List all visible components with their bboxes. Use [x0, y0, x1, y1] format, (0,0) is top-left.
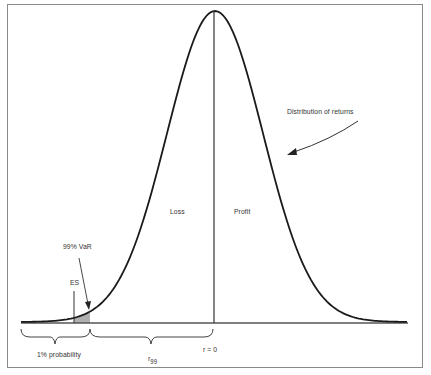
distribution-diagram — [0, 0, 431, 375]
distribution-arrowhead-icon — [287, 148, 297, 155]
brace-r99 — [90, 329, 213, 344]
brace-one-pct — [21, 329, 90, 344]
var-label: 99% VaR — [63, 242, 92, 251]
r-zero-label: r = 0 — [203, 345, 217, 354]
one-pct-probability-label: 1% probability — [37, 350, 81, 359]
distribution-label: Distribution of returns — [287, 107, 354, 116]
es-label: ES — [70, 278, 79, 287]
distribution-arrow — [294, 121, 358, 152]
r99-label: r99 — [148, 354, 157, 365]
loss-label: Loss — [170, 207, 185, 216]
r99-subscript: 99 — [150, 358, 157, 365]
var-arrowhead-icon — [85, 301, 91, 310]
var-arrow — [79, 258, 88, 304]
profit-label: Profit — [234, 207, 250, 216]
